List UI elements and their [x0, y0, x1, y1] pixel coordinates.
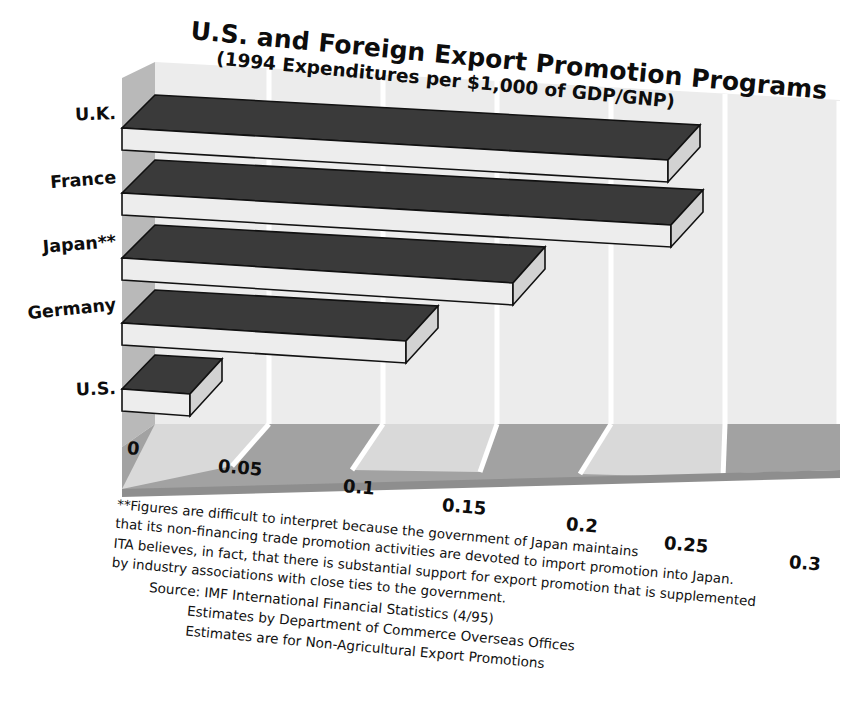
x-axis-tick-1: 0.05 [217, 455, 263, 480]
x-axis-tick-6: 0.3 [788, 551, 822, 575]
x-axis-tick-3: 0.15 [441, 494, 487, 519]
y-axis-label-us: U.S. [0, 378, 116, 402]
chart-figure: U.S. and Foreign Export Promotion Progra… [0, 0, 844, 711]
x-axis-tick-0: 0 [126, 437, 140, 459]
y-axis-label-uk: U.K. [0, 103, 116, 127]
x-axis-tick-4: 0.2 [565, 513, 599, 537]
x-axis-tick-2: 0.1 [342, 475, 376, 499]
